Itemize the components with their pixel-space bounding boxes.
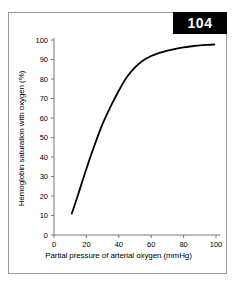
y-tick-label: 100 [35, 36, 48, 45]
figure-frame: 104 0102030405060708090100 020406080100 … [8, 12, 227, 274]
x-tick-label: 20 [82, 240, 90, 249]
plot-area: 0102030405060708090100 020406080100 Hemo… [9, 13, 228, 275]
y-tick-label: 80 [40, 75, 48, 84]
data-series-line [72, 44, 215, 213]
y-tick-label: 90 [40, 55, 48, 64]
chart-axes [54, 38, 220, 235]
x-axis-ticks: 020406080100 [52, 235, 222, 249]
y-tick-label: 0 [44, 231, 48, 240]
y-tick-label: 10 [40, 211, 48, 220]
x-tick-label: 0 [52, 240, 56, 249]
y-tick-label: 60 [40, 114, 48, 123]
figure-root: 104 0102030405060708090100 020406080100 … [0, 0, 237, 287]
y-tick-label: 20 [40, 192, 48, 201]
y-axis-ticks: 0102030405060708090100 [35, 36, 54, 240]
x-tick-label: 80 [179, 240, 187, 249]
x-tick-label: 60 [147, 240, 155, 249]
x-tick-label: 40 [115, 240, 123, 249]
y-tick-label: 30 [40, 172, 48, 181]
y-tick-label: 70 [40, 94, 48, 103]
x-tick-label: 100 [210, 240, 223, 249]
x-axis-title: Partial pressure of arterial oxygen (mmH… [9, 251, 228, 260]
y-tick-label: 50 [40, 133, 48, 142]
dissociation-curve-path [72, 44, 215, 213]
x-axis-title-label: Partial pressure of arterial oxygen (mmH… [45, 251, 192, 260]
dissociation-curve-chart: 0102030405060708090100 020406080100 [9, 13, 228, 275]
y-tick-label: 40 [40, 153, 48, 162]
